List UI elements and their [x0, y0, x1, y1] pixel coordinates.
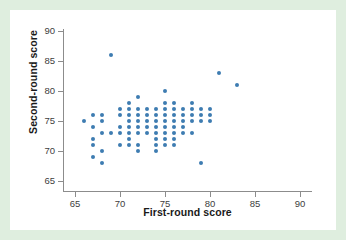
- data-point: [199, 107, 204, 112]
- data-point: [91, 143, 96, 148]
- data-point: [163, 137, 168, 142]
- data-point: [181, 113, 186, 118]
- data-point: [127, 143, 132, 148]
- x-tick-mark: [255, 192, 256, 197]
- data-point: [127, 113, 132, 118]
- data-point: [100, 161, 105, 166]
- data-point: [127, 119, 132, 124]
- data-point: [172, 113, 177, 118]
- data-point: [154, 119, 159, 124]
- data-point: [163, 107, 168, 112]
- data-point: [82, 119, 87, 124]
- data-point: [127, 137, 132, 142]
- data-point: [172, 137, 177, 142]
- data-point: [118, 125, 123, 130]
- x-tick-mark: [120, 192, 121, 197]
- data-point: [145, 119, 150, 124]
- x-tick-mark: [210, 192, 211, 197]
- figure-panel: 657075808590 657075808590 Second-round s…: [10, 10, 336, 230]
- data-point: [163, 101, 168, 106]
- x-axis-title: First-round score: [63, 206, 312, 218]
- data-point: [118, 107, 123, 112]
- data-point: [235, 83, 240, 88]
- data-point: [145, 107, 150, 112]
- data-point: [136, 119, 141, 124]
- data-point: [190, 101, 195, 106]
- data-point: [91, 113, 96, 118]
- data-point: [190, 107, 195, 112]
- data-point: [127, 125, 132, 130]
- data-point: [208, 119, 213, 124]
- data-point: [154, 131, 159, 136]
- data-point: [217, 71, 222, 76]
- data-point: [154, 107, 159, 112]
- data-point: [190, 113, 195, 118]
- data-point: [172, 125, 177, 130]
- data-point: [109, 131, 114, 136]
- data-point: [109, 53, 114, 58]
- data-point: [136, 125, 141, 130]
- y-tick-mark: [58, 61, 63, 62]
- data-point: [154, 143, 159, 148]
- data-point: [154, 137, 159, 142]
- y-axis-title: Second-round score: [27, 17, 39, 147]
- y-tick-mark: [58, 121, 63, 122]
- data-point: [172, 101, 177, 106]
- data-point: [100, 149, 105, 154]
- y-tick-mark: [58, 181, 63, 182]
- data-point: [118, 113, 123, 118]
- y-tick-mark: [58, 31, 63, 32]
- y-tick-mark: [58, 151, 63, 152]
- data-point: [172, 131, 177, 136]
- data-point: [208, 107, 213, 112]
- data-point: [163, 89, 168, 94]
- data-point: [172, 119, 177, 124]
- x-tick-mark: [300, 192, 301, 197]
- data-point: [91, 155, 96, 160]
- data-point: [118, 143, 123, 148]
- data-point: [199, 119, 204, 124]
- data-point: [181, 107, 186, 112]
- data-point: [100, 119, 105, 124]
- data-point: [154, 113, 159, 118]
- data-point: [145, 113, 150, 118]
- data-point: [100, 131, 105, 136]
- data-point: [190, 119, 195, 124]
- data-point: [127, 131, 132, 136]
- x-tick-mark: [75, 192, 76, 197]
- data-point: [163, 143, 168, 148]
- data-point: [100, 113, 105, 118]
- data-point: [181, 119, 186, 124]
- data-point: [136, 113, 141, 118]
- data-point: [172, 143, 177, 148]
- x-tick-mark: [165, 192, 166, 197]
- data-point: [181, 125, 186, 130]
- y-tick-label: 65: [31, 175, 55, 186]
- data-point: [136, 131, 141, 136]
- data-point: [199, 113, 204, 118]
- data-point: [145, 125, 150, 130]
- data-point: [145, 131, 150, 136]
- data-point: [163, 125, 168, 130]
- data-point: [163, 119, 168, 124]
- data-point: [118, 131, 123, 136]
- data-point: [136, 149, 141, 154]
- data-point: [163, 131, 168, 136]
- data-point: [154, 125, 159, 130]
- data-point: [127, 107, 132, 112]
- data-point: [181, 131, 186, 136]
- data-point: [190, 131, 195, 136]
- data-point: [127, 101, 132, 106]
- data-point: [208, 113, 213, 118]
- scatter-plot: 657075808590 657075808590 Second-round s…: [10, 10, 336, 230]
- data-point: [136, 107, 141, 112]
- data-point: [172, 107, 177, 112]
- data-point: [91, 137, 96, 142]
- data-point: [163, 113, 168, 118]
- x-axis-line: [63, 191, 312, 192]
- data-point: [136, 95, 141, 100]
- data-point: [199, 161, 204, 166]
- data-point: [91, 125, 96, 130]
- data-point: [136, 143, 141, 148]
- data-point: [154, 149, 159, 154]
